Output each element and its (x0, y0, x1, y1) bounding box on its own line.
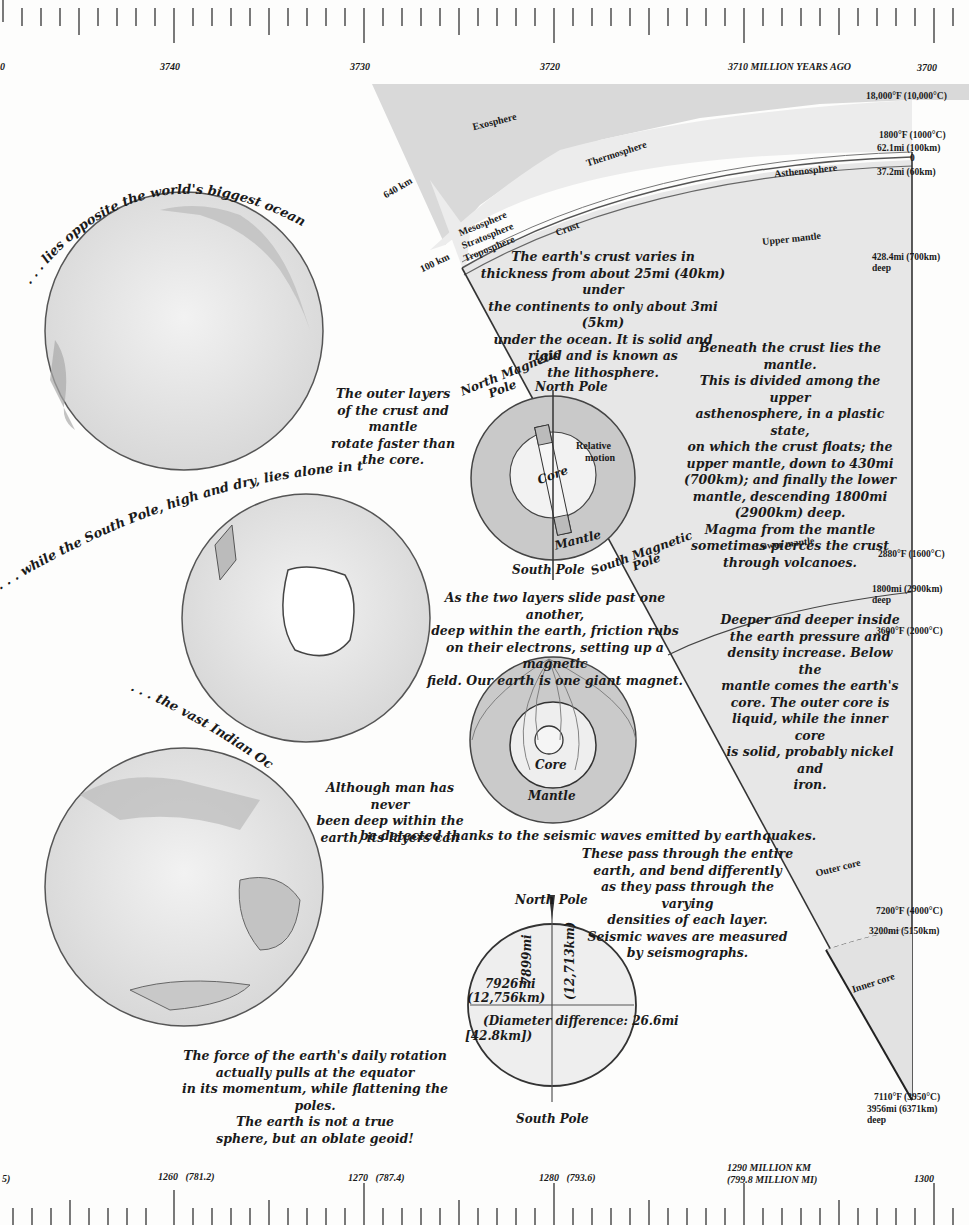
relative-motion-label: Relative (576, 440, 611, 451)
south-pole-label: South Pole (512, 563, 585, 577)
depth-60km: 37.2mi (60km) (877, 167, 936, 178)
text-line: (700km); and finally the lower (680, 472, 900, 489)
text-line: earth, and bend differently (580, 863, 795, 880)
text-line: in its momentum, while flattening the po… (160, 1081, 470, 1114)
polar-diameter-km: (12,713km) (563, 922, 577, 1000)
depth-6371km-deep: deep (867, 1115, 886, 1126)
geoid-description: The force of the earth's daily rotation … (160, 1048, 470, 1147)
field-core-label: Core (535, 758, 567, 772)
text-line: densities of each layer. (580, 912, 795, 929)
pacific-caption: . . . lies opposite the world's biggest … (0, 0, 308, 287)
text-line: (2900km) deep. (680, 505, 900, 522)
depth-zero: 0 (910, 153, 915, 164)
text-line: These pass through the entire (580, 846, 795, 863)
text-line: As the two layers slide past one another… (420, 590, 690, 623)
text-line: the continents to only about 3mi (5km) (468, 299, 738, 332)
seismic-detection-line: be detected thanks to the seismic waves … (360, 828, 816, 843)
text-line: mantle, descending 1800mi (680, 489, 900, 506)
relative-motion-label-2: motion (585, 452, 615, 463)
text-line: through volcanoes. (680, 555, 900, 572)
text-line: mantle comes the earth's (715, 678, 905, 695)
text-line: on which the crust floats; the (680, 439, 900, 456)
depth-5150km: 3200mi (5150km) (869, 926, 939, 937)
text-line: upper mantle, down to 430mi (680, 456, 900, 473)
text-line: The earth is not a true (160, 1114, 470, 1131)
south-pole-caption: . . . while the South Pole, high and dry… (0, 0, 363, 593)
text-line: sometimes pierces the crust (680, 538, 900, 555)
text-line: deep within the earth, friction rubs (420, 623, 690, 640)
depth-100km: 62.1mi (100km) (877, 143, 940, 154)
text-line: iron. (715, 777, 905, 794)
diameter-difference-km: [42.8km]) (465, 1029, 532, 1043)
rotation-description: The outer layers of the crust and mantle… (318, 386, 468, 469)
text-line: The earth's crust varies in (468, 249, 738, 266)
text-line: of the crust and mantle (318, 403, 468, 436)
diameter-difference: (Diameter difference: 26.6mi (483, 1014, 679, 1028)
seismic-description: These pass through the entire earth, and… (580, 846, 795, 962)
north-pole-label: North Pole (535, 380, 608, 394)
text-line: actually pulls at the equator (160, 1065, 470, 1082)
temp-1800f: 1800°F (1000°C) (879, 130, 946, 141)
text-line: by seismographs. (580, 945, 795, 962)
text-line: Although man has never (310, 780, 470, 813)
text-line: as they pass through the varying (580, 879, 795, 912)
text-line: liquid, while the inner core (715, 711, 905, 744)
depth-700km: 428.4mi (700km) (872, 252, 940, 263)
bottom-ruler-label: 1290 MILLION KM (727, 1162, 811, 1173)
temp-7200f: 7200°F (4000°C) (876, 906, 943, 917)
indian-ocean-caption: . . . the vast Indian Ocean. (0, 0, 276, 772)
text-line: Deeper and deeper inside (715, 612, 905, 629)
text-line: Seismic waves are measured (580, 929, 795, 946)
depth-6371km: 3956mi (6371km) (867, 1104, 937, 1115)
depth-2900km-deep: deep (872, 595, 891, 606)
text-line: is solid, probably nickel and (715, 744, 905, 777)
bottom-ruler (0, 1180, 969, 1225)
geoid-north-pole-label: North Pole (515, 893, 588, 907)
depth-2900km: 1800mi (2900km) (872, 584, 942, 595)
text-line: thickness from about 25mi (40km) under (468, 266, 738, 299)
text-line: Magma from the mantle (680, 522, 900, 539)
text-line: density increase. Below the (715, 645, 905, 678)
mantle-description: Beneath the crust lies the mantle. This … (680, 340, 900, 571)
text-line: asthenosphere, in a plastic state, (680, 406, 900, 439)
text-line: the earth pressure and (715, 629, 905, 646)
geoid-south-pole-label: South Pole (516, 1112, 589, 1126)
text-line: The force of the earth's daily rotation (160, 1048, 470, 1065)
core-description: Deeper and deeper inside the earth press… (715, 612, 905, 794)
field-mantle-label: Mantle (528, 789, 576, 803)
temp-exosphere: 18,000°F (10,000°C) (866, 91, 947, 102)
text-line: rotate faster than (318, 436, 468, 453)
text-line: Beneath the crust lies the mantle. (680, 340, 900, 373)
text-line: This is divided among the upper (680, 373, 900, 406)
temp-7110f: 7110°F (3950°C) (874, 1092, 940, 1103)
text-line: the core. (318, 452, 468, 469)
text-line: on their electrons, setting up a magneti… (420, 640, 690, 673)
text-line: sphere, but an oblate geoid! (160, 1131, 470, 1148)
text-line: core. The outer core is (715, 695, 905, 712)
friction-description: As the two layers slide past one another… (420, 590, 690, 689)
equatorial-diameter-km: (12,756km) (467, 991, 545, 1005)
text-line: The outer layers (318, 386, 468, 403)
depth-700km-deep: deep (872, 263, 891, 274)
polar-diameter-mi: 7899mi (520, 934, 534, 985)
text-line: field. Our earth is one giant magnet. (420, 673, 690, 690)
